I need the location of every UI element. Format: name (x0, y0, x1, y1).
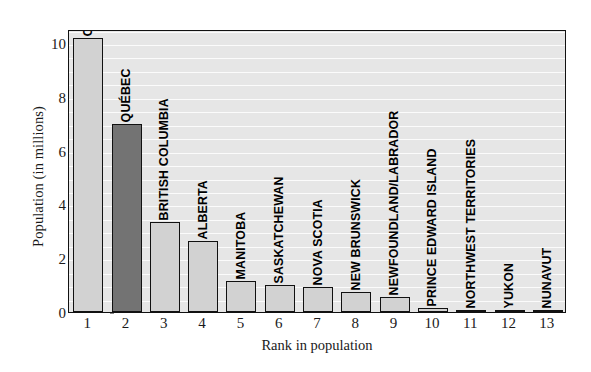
province-label: NEWFOUNDLAND/LABRADOR (388, 111, 400, 296)
province-label: NEW BRUNSWICK (349, 179, 361, 290)
bar[interactable] (303, 287, 333, 312)
y-tick-label: 8 (44, 89, 66, 106)
gridline (69, 126, 565, 127)
bar[interactable] (265, 285, 295, 312)
x-tick-label: 12 (501, 315, 516, 332)
bar[interactable] (533, 310, 563, 313)
gridline (69, 58, 565, 59)
x-axis-tick-labels: 12345678910111213 (68, 315, 566, 335)
bar[interactable] (341, 292, 371, 312)
province-label: NORTHWEST TERRITORIES (464, 138, 476, 308)
gridline (69, 85, 565, 86)
gridline (69, 139, 565, 140)
y-tick-label: 4 (44, 197, 66, 214)
x-tick-label: 2 (122, 315, 130, 332)
gridline (69, 180, 565, 181)
bar[interactable] (73, 38, 103, 312)
gridline (69, 32, 565, 33)
bar[interactable] (188, 241, 218, 312)
y-tick-label: 0 (44, 305, 66, 322)
province-label: ALBERTA (196, 180, 208, 239)
x-tick-label: 10 (424, 315, 439, 332)
bar[interactable] (380, 297, 410, 312)
province-label: MANITOBA (234, 212, 246, 280)
bar[interactable] (495, 310, 525, 313)
x-tick-label: 3 (160, 315, 168, 332)
plot-area: ONTARIOQUÉBECBRITISH COLUMBIAALBERTAMANI… (68, 30, 566, 313)
x-tick-label: 9 (390, 315, 398, 332)
province-label: PRINCE EDWARD ISLAND (426, 149, 438, 307)
x-axis-title: Rank in population (68, 337, 566, 354)
gridline (69, 72, 565, 73)
bar[interactable] (456, 310, 486, 313)
x-tick-label: 7 (313, 315, 321, 332)
bar[interactable] (112, 124, 142, 312)
province-label: NOVA SCOTIA (311, 199, 323, 285)
gridline (69, 112, 565, 113)
gridline (69, 99, 565, 100)
gridline (69, 166, 565, 167)
province-label: NUNAVUT (541, 247, 553, 308)
bar[interactable] (150, 222, 180, 312)
x-tick-label: 4 (198, 315, 206, 332)
y-axis-tick-labels: 0246810 (44, 30, 66, 313)
x-tick-label: 1 (83, 315, 91, 332)
province-label: ONTARIO (81, 30, 93, 36)
bar-chart-figure: Population (in millions) 0246810 ONTARIO… (0, 0, 591, 372)
x-tick-label: 6 (275, 315, 283, 332)
province-label: BRITISH COLUMBIA (158, 98, 170, 220)
province-label: QUÉBEC (120, 68, 132, 122)
province-label: SASKATCHEWAN (273, 176, 285, 283)
y-tick-label: 6 (44, 143, 66, 160)
gridline (69, 45, 565, 46)
province-label: YUKON (503, 262, 515, 308)
x-tick-label: 8 (352, 315, 360, 332)
x-tick-label: 5 (237, 315, 245, 332)
y-tick-label: 10 (44, 36, 66, 53)
bar[interactable] (418, 308, 448, 312)
x-tick-label: 11 (463, 315, 477, 332)
gridline (69, 193, 565, 194)
bar[interactable] (226, 281, 256, 312)
y-tick-label: 2 (44, 251, 66, 268)
gridline (69, 153, 565, 154)
x-tick-label: 13 (539, 315, 554, 332)
